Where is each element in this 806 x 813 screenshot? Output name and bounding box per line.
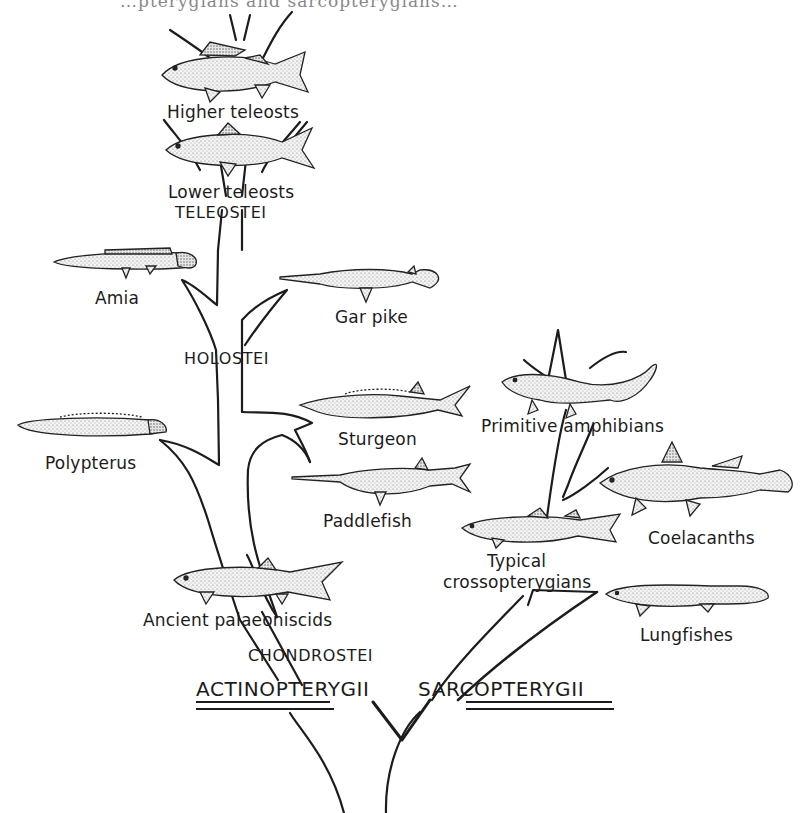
polypterus-fish-icon (18, 413, 166, 436)
label-holostei: HOLOSTEI (184, 351, 269, 367)
label-coelacanths: Coelacanths (648, 530, 755, 547)
label-chondrostei: CHONDROSTEI (248, 648, 373, 664)
crossopterygian-fish-icon (462, 508, 620, 548)
holostei-left (182, 250, 218, 400)
amphibian-fan (548, 330, 566, 380)
label-crossopterygians: crossopterygians (443, 574, 591, 591)
label-higher-teleosts: Higher teleosts (167, 104, 299, 121)
label-actinopterygii: ACTINOPTERYGII (196, 679, 370, 699)
label-polypterus: Polypterus (45, 455, 136, 472)
coelacanth-fish-icon (600, 442, 792, 516)
base-trunk-left (290, 713, 344, 813)
base-fork (373, 700, 430, 740)
amia-fish-icon (54, 248, 196, 278)
gar-pike-fish-icon (280, 266, 439, 302)
label-lungfishes: Lungfishes (640, 627, 733, 644)
palaeoniscid-fish-icon (174, 558, 342, 604)
higher-teleost-fish-icon (162, 42, 308, 102)
label-sturgeon: Sturgeon (338, 431, 417, 448)
label-gar-pike: Gar pike (335, 309, 408, 326)
label-ancient-palaeoniscids: Ancient palaeoniscids (143, 612, 332, 629)
label-teleostei: TELEOSTEI (175, 205, 267, 221)
label-typical: Typical (487, 553, 546, 570)
polypterus-branch (160, 400, 219, 465)
label-primitive-amphibians: Primitive amphibians (481, 418, 664, 435)
primitive-amphibian-icon (502, 364, 656, 418)
label-sarcopterygii: SARCOPTERYGII (418, 679, 584, 699)
actino-trunk-left (160, 440, 278, 680)
lungfish-fork (528, 590, 596, 605)
lungfish-fish-icon (606, 585, 768, 616)
label-amia: Amia (95, 290, 139, 307)
tree-branches (0, 0, 806, 813)
paddlefish-fish-icon (292, 458, 470, 505)
sturgeon-fish-icon (300, 382, 470, 418)
label-paddlefish: Paddlefish (323, 513, 412, 530)
phylogeny-figure: …pterygians and sarcopterygians… (0, 0, 806, 813)
label-lower-teleosts: Lower teleosts (168, 184, 294, 201)
